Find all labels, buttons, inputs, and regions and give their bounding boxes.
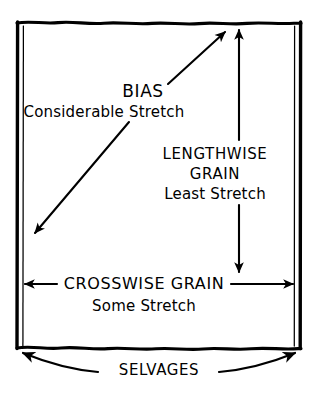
bias-subtitle: Considerable Stretch xyxy=(23,105,184,120)
selvages-title: SELVAGES xyxy=(119,363,199,378)
fabric-left-selvage-outer xyxy=(17,22,18,349)
fabric-bottom-raw-edge xyxy=(17,347,301,349)
lengthwise-title-line1: LENGTHWISE xyxy=(163,147,268,162)
crosswise-title: CROSSWISE GRAIN xyxy=(64,276,225,292)
lengthwise-title-line2: GRAIN xyxy=(190,167,240,182)
fabric-left-selvage-inner xyxy=(23,26,24,346)
fabric-grain-diagram: BIAS Considerable Stretch LENGTHWISE GRA… xyxy=(0,0,318,396)
lengthwise-subtitle: Least Stretch xyxy=(164,187,266,202)
crosswise-subtitle: Some Stretch xyxy=(92,299,196,314)
bias-title: BIAS xyxy=(122,83,164,100)
fabric-top-raw-edge xyxy=(17,22,301,24)
diagram-canvas xyxy=(0,0,318,396)
